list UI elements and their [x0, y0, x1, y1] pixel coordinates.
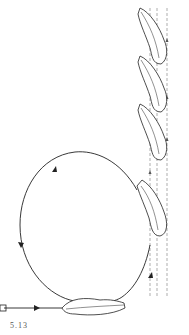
figure-caption: 5.13: [10, 321, 28, 330]
loop-arrow-icon: [52, 166, 57, 172]
feather-icon: [62, 299, 125, 315]
feather-icon: [138, 56, 167, 112]
feather-icon: [138, 8, 167, 64]
approach-arrow-icon: [34, 305, 40, 311]
loop-path: [20, 152, 150, 304]
feather-icon: [137, 180, 167, 236]
feather-trajectory-diagram: [0, 0, 189, 335]
feather-icon: [138, 104, 167, 160]
loop-arrow-icon: [18, 242, 24, 248]
loop-arrow-icon: [148, 272, 153, 278]
